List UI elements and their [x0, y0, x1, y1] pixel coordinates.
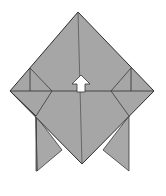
origami-diagram: [0, 0, 166, 196]
origami-figure: [0, 0, 166, 196]
